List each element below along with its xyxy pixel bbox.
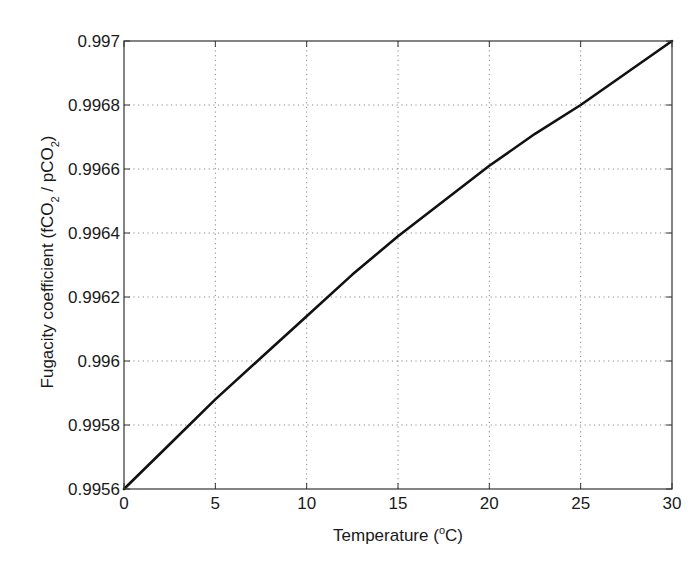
line-chart: 051015202530 0.99560.99580.9960.99620.99… bbox=[0, 0, 700, 572]
y-tick-label: 0.997 bbox=[77, 32, 120, 51]
x-tick-label: 30 bbox=[663, 494, 682, 513]
y-tick-label: 0.9966 bbox=[68, 160, 120, 179]
y-tick-label: 0.9958 bbox=[68, 416, 120, 435]
y-tick-labels: 0.99560.99580.9960.99620.99640.99660.996… bbox=[68, 32, 120, 499]
x-tick-label: 15 bbox=[389, 494, 408, 513]
x-tick-label: 5 bbox=[211, 494, 220, 513]
grid-lines bbox=[124, 41, 672, 489]
x-tick-label: 20 bbox=[480, 494, 499, 513]
y-tick-label: 0.9962 bbox=[68, 288, 120, 307]
x-tick-label: 10 bbox=[297, 494, 316, 513]
x-tick-label: 25 bbox=[571, 494, 590, 513]
y-tick-label: 0.996 bbox=[77, 352, 120, 371]
x-axis-label: Temperature (oC) bbox=[333, 524, 463, 545]
x-tick-labels: 051015202530 bbox=[119, 494, 681, 513]
y-tick-label: 0.9968 bbox=[68, 96, 120, 115]
y-axis-label: Fugacity coefficient (fCO2 / pCO2) bbox=[38, 136, 61, 389]
x-tick-label: 0 bbox=[119, 494, 128, 513]
y-tick-label: 0.9964 bbox=[68, 224, 120, 243]
y-tick-label: 0.9956 bbox=[68, 480, 120, 499]
